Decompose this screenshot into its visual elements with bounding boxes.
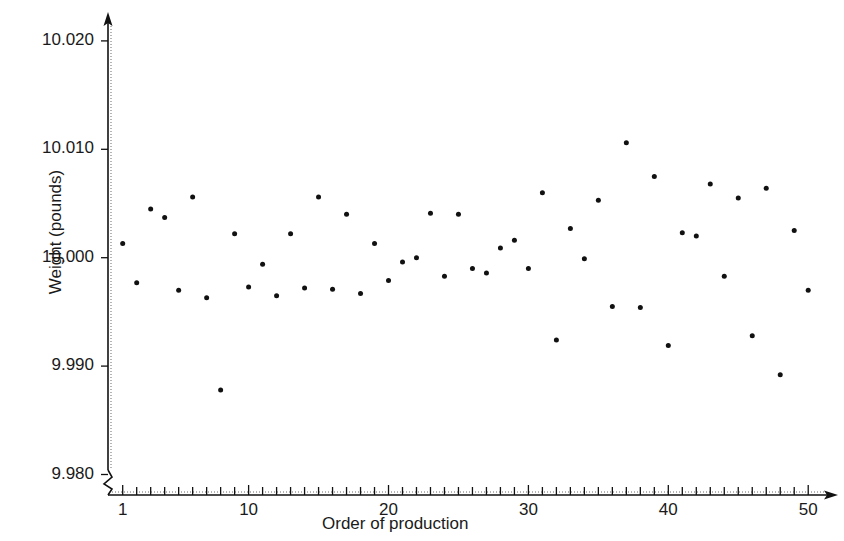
data-points-layer [120, 140, 811, 392]
data-point [372, 241, 377, 246]
data-point [694, 234, 699, 239]
data-point [204, 295, 209, 300]
data-point [232, 231, 237, 236]
data-point [568, 226, 573, 231]
x-tick-label: 10 [219, 500, 279, 520]
data-point [176, 288, 181, 293]
y-tick-label: 10.010 [0, 138, 94, 158]
x-tick-label: 20 [359, 500, 419, 520]
data-point [498, 245, 503, 250]
data-point [456, 212, 461, 217]
data-point [484, 270, 489, 275]
data-point [442, 274, 447, 279]
data-point [400, 260, 405, 265]
data-point [148, 206, 153, 211]
data-point [162, 215, 167, 220]
data-point [120, 241, 125, 246]
y-axis [104, 12, 113, 495]
data-point [736, 196, 741, 201]
data-point [190, 195, 195, 200]
data-point [666, 343, 671, 348]
data-point [316, 195, 321, 200]
data-point [806, 288, 811, 293]
y-tick-label: 9.980 [0, 464, 94, 484]
y-tick-label: 10.020 [0, 30, 94, 50]
data-point [260, 262, 265, 267]
y-tick-label: 9.990 [0, 355, 94, 375]
data-point [344, 212, 349, 217]
y-axis-ticks [101, 41, 108, 475]
x-tick-label: 40 [638, 500, 698, 520]
y-tick-label: 10.000 [0, 247, 94, 267]
data-point [792, 228, 797, 233]
data-point [652, 174, 657, 179]
x-tick-label: 50 [778, 500, 838, 520]
data-point [708, 181, 713, 186]
data-point [526, 266, 531, 271]
data-point [624, 140, 629, 145]
plot-canvas [0, 0, 844, 541]
data-point [610, 304, 615, 309]
data-point [386, 278, 391, 283]
data-point [596, 198, 601, 203]
data-point [330, 287, 335, 292]
x-axis-ticks [123, 485, 809, 495]
data-point [778, 372, 783, 377]
data-point [722, 274, 727, 279]
data-point [680, 230, 685, 235]
x-tick-label: 30 [498, 500, 558, 520]
data-point [554, 338, 559, 343]
data-point [582, 256, 587, 261]
data-point [414, 255, 419, 260]
data-point [288, 231, 293, 236]
data-point [134, 280, 139, 285]
data-point [274, 293, 279, 298]
data-point [246, 284, 251, 289]
data-point [218, 387, 223, 392]
data-point [764, 186, 769, 191]
data-point [512, 238, 517, 243]
data-point [750, 333, 755, 338]
data-point [302, 286, 307, 291]
data-point [428, 211, 433, 216]
scatter-plot-figure: Weight (pounds) Order of production 9.98… [0, 0, 844, 541]
data-point [638, 305, 643, 310]
x-tick-label: 1 [93, 500, 153, 520]
data-point [540, 190, 545, 195]
y-axis-label: Weight (pounds) [46, 132, 66, 332]
data-point [358, 291, 363, 296]
data-point [470, 266, 475, 271]
